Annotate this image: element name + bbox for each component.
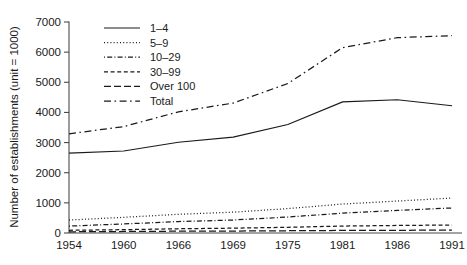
y-axis-title: Number of establishments (unit = 1000) xyxy=(8,26,20,228)
x-tick-label: 1966 xyxy=(166,239,192,251)
y-tick-label: 3000 xyxy=(35,137,61,149)
data-series-group xyxy=(69,36,452,232)
legend-label-s30_99: 30–99 xyxy=(150,66,181,78)
chart-figure: 01000200030004000500060007000 1954196019… xyxy=(0,0,467,265)
y-tick-label: 1000 xyxy=(35,197,61,209)
series-line-s30_99 xyxy=(69,225,452,230)
series-line-s10_29 xyxy=(69,208,452,226)
legend-label-s10_29: 10–29 xyxy=(150,51,181,63)
x-tick-label: 1981 xyxy=(330,239,356,251)
y-tick-label: 0 xyxy=(55,227,61,239)
y-tick-label: 5000 xyxy=(35,76,61,88)
x-tick-label: 1975 xyxy=(275,239,301,251)
x-tick-label: 1986 xyxy=(384,239,410,251)
chart-legend: 1–45–910–2930–99Over 100Total xyxy=(104,22,195,107)
series-line-sover100 xyxy=(69,230,452,232)
series-line-s5_9 xyxy=(69,198,452,220)
x-tick-label: 1991 xyxy=(439,239,465,251)
legend-label-sover100: Over 100 xyxy=(150,80,195,92)
legend-label-s1_4: 1–4 xyxy=(150,22,168,34)
y-axis-ticks xyxy=(64,22,69,233)
x-axis-tick-labels: 19541960196619691975198119861991 xyxy=(56,239,465,251)
y-axis-tick-labels: 01000200030004000500060007000 xyxy=(35,16,61,239)
legend-label-stotal: Total xyxy=(150,95,173,107)
y-tick-label: 7000 xyxy=(35,16,61,28)
legend-label-s5_9: 5–9 xyxy=(150,37,168,49)
y-tick-label: 2000 xyxy=(35,167,61,179)
x-tick-label: 1960 xyxy=(111,239,137,251)
y-tick-label: 4000 xyxy=(35,106,61,118)
x-tick-label: 1969 xyxy=(220,239,246,251)
line-chart-canvas: 01000200030004000500060007000 1954196019… xyxy=(0,0,467,265)
x-tick-label: 1954 xyxy=(56,239,82,251)
y-tick-label: 6000 xyxy=(35,46,61,58)
series-line-stotal xyxy=(69,36,452,134)
